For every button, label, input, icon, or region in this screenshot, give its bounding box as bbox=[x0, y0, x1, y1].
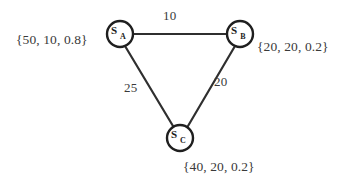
node-a-label: S bbox=[111, 24, 117, 36]
node-a-subscript: A bbox=[120, 32, 126, 41]
node-a-attributes: {50, 10, 0.8} bbox=[16, 33, 88, 47]
graph-canvas: S A S B S C bbox=[0, 0, 356, 184]
node-c-label: S bbox=[171, 128, 177, 140]
node-b-label: S bbox=[231, 24, 237, 36]
edge-weight-a-c: 25 bbox=[124, 81, 137, 94]
node-c[interactable]: S C bbox=[167, 125, 193, 151]
node-b-attributes: {20, 20, 0.2} bbox=[257, 40, 329, 54]
node-b-subscript: B bbox=[240, 32, 246, 41]
edge-weight-b-c: 20 bbox=[214, 75, 227, 88]
node-b[interactable]: S B bbox=[227, 21, 253, 47]
node-a[interactable]: S A bbox=[107, 21, 133, 47]
graph-figure: S A S B S C 10 25 20 {50, 10, 0.8} {20, … bbox=[0, 0, 356, 184]
node-c-subscript: C bbox=[180, 136, 186, 145]
node-c-attributes: {40, 20, 0.2} bbox=[183, 160, 255, 174]
edge-weight-a-b: 10 bbox=[163, 9, 176, 22]
edge-b-c[interactable] bbox=[188, 46, 235, 126]
